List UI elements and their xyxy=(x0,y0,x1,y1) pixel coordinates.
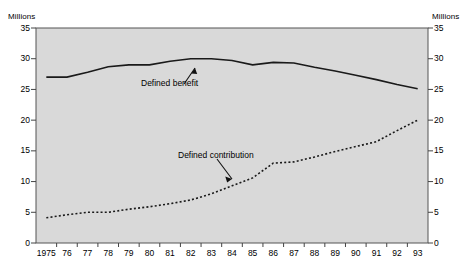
y-tick-label-right-35: 35 xyxy=(434,23,454,33)
right-tick-marks xyxy=(428,28,433,243)
bottom-tick-marks xyxy=(57,243,408,247)
y-tick-label-left-15: 15 xyxy=(10,145,30,155)
x-tick-label-93: 93 xyxy=(404,248,432,258)
y-tick-label-left-20: 20 xyxy=(10,115,30,125)
y-tick-label-left-25: 25 xyxy=(10,84,30,94)
y-tick-label-right-25: 25 xyxy=(434,84,454,94)
y-tick-label-left-10: 10 xyxy=(10,176,30,186)
y-tick-label-right-20: 20 xyxy=(434,115,454,125)
y-tick-label-left-0: 0 xyxy=(10,238,30,248)
series-label-defined-benefit: Defined benefit xyxy=(141,78,198,88)
plot-canvas xyxy=(0,0,471,270)
left-tick-marks xyxy=(31,28,36,243)
y-tick-label-right-30: 30 xyxy=(434,53,454,63)
y-tick-label-right-0: 0 xyxy=(434,238,454,248)
y-tick-label-right-15: 15 xyxy=(434,145,454,155)
y-tick-label-left-35: 35 xyxy=(10,23,30,33)
y-tick-label-right-10: 10 xyxy=(434,176,454,186)
y-tick-label-left-5: 5 xyxy=(10,207,30,217)
y-tick-label-left-30: 30 xyxy=(10,53,30,63)
y-tick-label-right-5: 5 xyxy=(434,207,454,217)
chart-figure: Millions Millions 05101520253035 0510152… xyxy=(0,0,471,270)
series-label-defined-contribution: Defined contribution xyxy=(178,150,254,160)
